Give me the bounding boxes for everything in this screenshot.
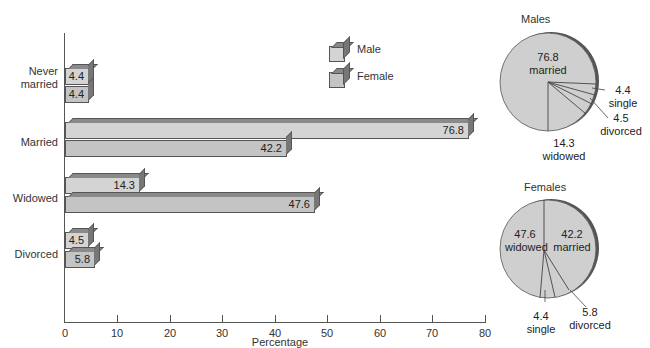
pie-label-females-divorced: 5.8 divorced [567,306,613,332]
x-tick-label: 20 [155,327,185,339]
x-tick [117,315,118,322]
pie-label-males-married: 76.8 married [528,51,568,77]
slice-value: 42.2 [550,228,594,241]
x-tick [170,315,171,322]
pie-title-males: Males [521,13,550,25]
bar-male-never-married: 4.4 [65,68,89,85]
slice-label: single [525,323,557,336]
slice-value: 76.8 [528,51,568,64]
x-tick-label: 30 [207,327,237,339]
x-tick-label: 0 [50,327,80,339]
legend-label-male: Male [357,43,381,55]
x-tick-label: 60 [365,327,395,339]
bar-value: 14.3 [114,179,135,191]
slice-value: 47.6 [505,228,545,241]
x-tick [485,315,486,322]
legend-label-female: Female [357,70,394,82]
pie-title-females: Females [524,181,566,193]
bar-value: 4.4 [69,88,84,100]
slice-label: married [550,241,594,254]
bar-female-divorced: 5.8 [65,251,95,268]
pie-label-males-widowed: 14.3 widowed [542,137,586,163]
slice-value: 4.4 [525,310,557,323]
bar-value: 4.5 [69,234,84,246]
slice-label: divorced [567,319,613,332]
category-label-line: Never [0,65,58,78]
category-label-never-married: Never married [0,65,58,91]
x-tick-label: 70 [417,327,447,339]
bar-value: 4.4 [69,70,84,82]
legend-swatch-male-icon [329,46,345,62]
bar-female-widowed: 47.6 [65,196,315,213]
pie-label-females-single: 4.4 single [525,310,557,336]
category-label-married: Married [0,136,58,149]
pie-label-males-divorced: 4.5 divorced [598,112,644,138]
category-label-line: married [0,78,58,91]
x-axis-title: Percentage [240,336,320,348]
x-tick [380,315,381,322]
bar-value: 42.2 [261,142,282,154]
pie-label-males-single: 4.4 single [605,84,641,110]
slice-value: 5.8 [567,306,613,319]
x-tick [432,315,433,322]
bar-value: 5.8 [75,253,90,265]
pie-label-females-married: 42.2 married [550,228,594,254]
slice-label: widowed [505,241,545,254]
category-label-divorced: Divorced [0,248,58,261]
bar-value: 76.8 [443,124,464,136]
x-axis [64,322,486,323]
slice-value: 4.4 [605,84,641,97]
x-tick [222,315,223,322]
x-tick [275,315,276,322]
x-tick-label: 80 [470,327,500,339]
slice-label: married [528,64,568,77]
slice-value: 4.5 [598,112,644,125]
slice-label: divorced [598,125,644,138]
bar-male-married: 76.8 [65,122,469,139]
slice-label: widowed [542,150,586,163]
category-label-widowed: Widowed [0,192,58,205]
slice-label: single [605,97,641,110]
x-tick-label: 10 [102,327,132,339]
x-tick [327,315,328,322]
bar-female-never-married: 4.4 [65,86,89,103]
bar-value: 47.6 [289,198,310,210]
legend-swatch-female-icon [329,72,345,88]
pie-label-females-widowed: 47.6 widowed [505,228,545,254]
slice-value: 14.3 [542,137,586,150]
bar-female-married: 42.2 [65,140,287,157]
